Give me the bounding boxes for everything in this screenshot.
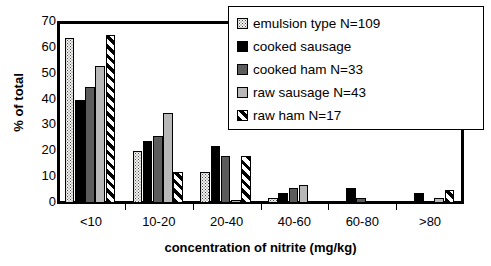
chart-legend: emulsion type N=109cooked sausagecooked … xyxy=(228,6,484,130)
y-tick-label-60: 60 xyxy=(28,40,56,53)
bar-3-1 xyxy=(163,113,173,204)
bar-3-2 xyxy=(231,200,241,203)
bar-4-0 xyxy=(106,35,116,203)
legend-item-2[interactable]: cooked ham N=33 xyxy=(237,58,477,81)
bar-2-2 xyxy=(221,156,231,203)
bar-3-0 xyxy=(95,66,105,203)
bar-group-10 xyxy=(57,21,125,203)
bar-4-1 xyxy=(173,172,183,203)
x-tick-mark-5 xyxy=(396,204,397,210)
x-tick-mark-3 xyxy=(261,204,262,210)
legend-label-1: cooked sausage xyxy=(253,40,351,54)
bar-0-2 xyxy=(200,172,210,203)
legend-swatch-icon-1 xyxy=(237,41,248,52)
y-tick-label-10: 10 xyxy=(28,169,56,182)
bar-3-5 xyxy=(434,198,444,203)
x-tick-mark-1 xyxy=(125,204,126,210)
legend-item-1[interactable]: cooked sausage xyxy=(237,35,477,58)
y-tick-label-20: 20 xyxy=(28,143,56,156)
y-tick-label-30: 30 xyxy=(28,117,56,130)
bar-1-5 xyxy=(414,193,424,203)
bar-group-10-20 xyxy=(125,21,193,203)
legend-label-4: raw ham N=17 xyxy=(253,109,341,123)
bar-0-3 xyxy=(268,198,278,203)
legend-label-3: raw sausage N=43 xyxy=(253,86,366,100)
bar-4-2 xyxy=(241,156,251,203)
legend-item-4[interactable]: raw ham N=17 xyxy=(237,104,477,127)
bar-2-1 xyxy=(153,136,163,203)
legend-swatch-icon-3 xyxy=(237,87,248,98)
bar-3-3 xyxy=(299,185,309,203)
legend-swatch-icon-0 xyxy=(237,18,248,29)
legend-label-2: cooked ham N=33 xyxy=(253,63,363,77)
y-tick-label-40: 40 xyxy=(28,92,56,105)
legend-label-0: emulsion type N=109 xyxy=(253,17,380,31)
bar-2-0 xyxy=(85,87,95,203)
legend-item-3[interactable]: raw sausage N=43 xyxy=(237,81,477,104)
y-tick-label-0: 0 xyxy=(28,195,56,208)
x-tick-mark-2 xyxy=(193,204,194,210)
bar-1-0 xyxy=(75,100,85,203)
bar-1-4 xyxy=(346,188,356,204)
bar-0-0 xyxy=(65,38,75,203)
bar-0-1 xyxy=(133,151,143,203)
legend-item-0[interactable]: emulsion type N=109 xyxy=(237,12,477,35)
y-tick-label-70: 70 xyxy=(28,14,56,27)
bar-1-1 xyxy=(143,141,153,203)
bar-1-3 xyxy=(278,193,288,203)
y-tick-label-50: 50 xyxy=(28,66,56,79)
x-tick-mark-4 xyxy=(328,204,329,210)
bar-1-2 xyxy=(211,146,221,203)
bar-chart: % of total 706050403020100 <1010-2020-40… xyxy=(0,0,491,266)
bar-2-3 xyxy=(289,188,299,204)
bar-2-4 xyxy=(356,198,366,203)
x-axis-title: concentration of nitrite (mg/kg) xyxy=(57,240,464,255)
legend-swatch-icon-2 xyxy=(237,64,248,75)
legend-swatch-icon-4 xyxy=(237,110,248,121)
bar-4-5 xyxy=(445,190,455,203)
x-tick-label-80: >80 xyxy=(390,214,470,229)
